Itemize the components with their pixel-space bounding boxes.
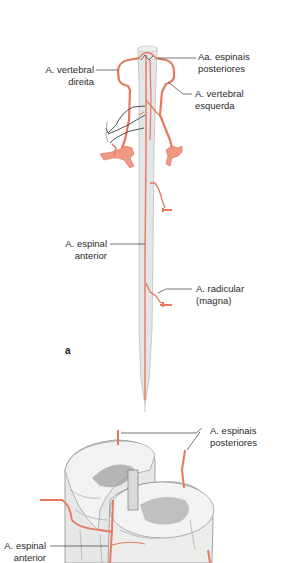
label-a-espinal-anterior-b: A. espinal anterior bbox=[0, 540, 46, 563]
left-vertebral-artery bbox=[155, 58, 174, 148]
right-subclavian-stub bbox=[100, 146, 134, 168]
spinal-cord-arterial-supply-figure: Aa. espinais posteriores A. vertebral di… bbox=[0, 0, 286, 563]
label-a-espinal-anterior: A. espinal anterior bbox=[50, 238, 107, 261]
label-a-vertebral-esquerda: A. vertebral esquerda bbox=[195, 88, 244, 111]
label-a-espinais-posteriores-b: A. espinais posteriores bbox=[210, 425, 257, 448]
panel-letter-a: a bbox=[65, 345, 71, 356]
label-a-radicular-magna: A. radicular (magna) bbox=[196, 283, 244, 306]
panel-b-illustration bbox=[40, 430, 214, 563]
left-subclavian-stub bbox=[166, 146, 182, 166]
label-a-vertebral-direita: A. vertebral direita bbox=[38, 64, 94, 87]
label-aa-espinais-posteriores: Aa. espinais posteriores bbox=[198, 51, 250, 74]
